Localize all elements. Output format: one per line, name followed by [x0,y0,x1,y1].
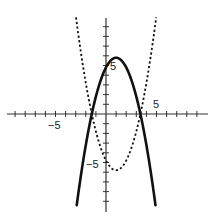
x-tick-label-pos5: 5 [153,98,159,110]
x-tick-label-neg5: −5 [48,119,61,131]
parabola-graph: −5 5 5 −5 [0,0,219,220]
y-tick-label-pos5: 5 [110,60,116,72]
axes [7,18,208,212]
solid-parabola [77,58,156,206]
y-tick-label-neg5: −5 [86,158,99,170]
dashed-parabola [76,17,156,170]
